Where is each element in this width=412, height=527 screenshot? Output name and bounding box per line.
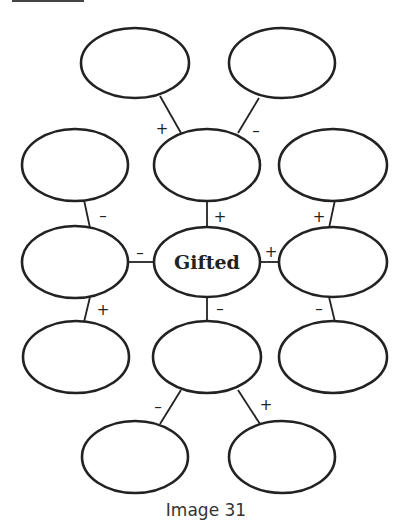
node-r3-right[interactable] — [279, 227, 387, 297]
node-r4-center[interactable] — [153, 321, 261, 393]
node-r3-left[interactable] — [22, 226, 128, 298]
sign-top-left: + — [156, 120, 169, 138]
link-r4-left — [84, 297, 90, 322]
sign-r3-left: – — [136, 244, 144, 262]
image-caption: Image 31 — [0, 500, 412, 520]
node-bot-right[interactable] — [229, 421, 335, 493]
link-r4-right — [329, 297, 335, 322]
node-r4-left[interactable] — [23, 321, 129, 393]
sign-bot-right: + — [260, 396, 273, 414]
link-r2-right — [329, 200, 335, 228]
node-top-left[interactable] — [81, 28, 189, 98]
sign-r4-center: – — [216, 300, 224, 318]
sign-r4-right: – — [315, 300, 323, 318]
sign-r2-left: – — [99, 207, 107, 225]
node-r2-right[interactable] — [279, 129, 387, 201]
concept-map: Gifted + – – + + – + + – – – + — [0, 0, 412, 527]
sign-top-right: – — [252, 122, 260, 140]
sign-bot-left: – — [154, 398, 162, 416]
link-bot-left — [160, 390, 181, 424]
node-bot-left[interactable] — [82, 421, 188, 493]
sign-r2-center: + — [214, 208, 227, 226]
link-bot-right — [238, 390, 260, 424]
node-r4-right[interactable] — [279, 321, 387, 393]
node-r2-center[interactable] — [154, 129, 260, 201]
sign-r3-right: + — [265, 243, 278, 261]
center-label: Gifted — [174, 251, 240, 273]
sign-r4-left: + — [97, 301, 110, 319]
node-r2-left[interactable] — [22, 129, 128, 201]
sign-r2-right: + — [313, 208, 326, 226]
node-top-right[interactable] — [229, 28, 335, 98]
link-r2-left — [84, 200, 90, 228]
